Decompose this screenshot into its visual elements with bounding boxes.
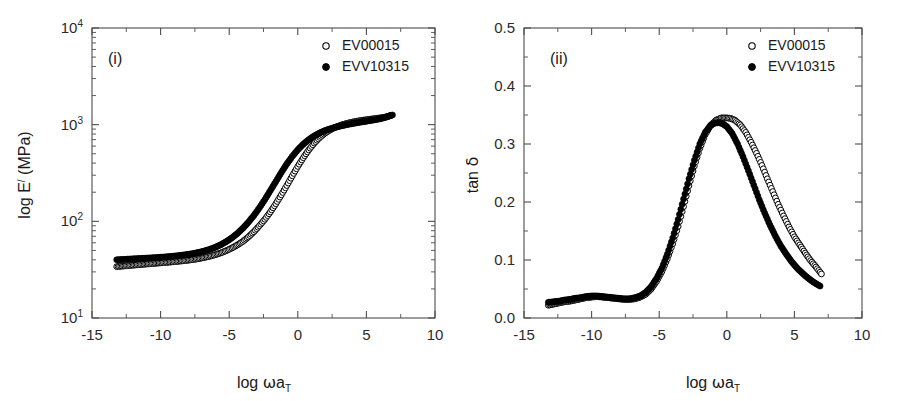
x-tick-label: 5 [362,326,370,343]
legend-marker-filled-circle-icon [323,64,330,71]
y-tick-label: 0.1 [494,251,515,268]
panel-ii-legend: EV00015EVV10315 [749,37,836,74]
panel-ii-data-points [545,115,824,308]
x-tick-label: -10 [581,326,603,343]
panel-i-data-points [114,112,396,270]
panel-i: -15-10-50510101102103104 (i) EV00015EVV1… [0,0,458,401]
panel-i-xaxis-title: log ωaT [237,373,291,394]
legend-label: EV00015 [768,37,826,53]
x-tick-label: 0 [294,326,302,343]
x-tick-label: 0 [723,326,731,343]
y-tick-label: 0.0 [494,309,515,326]
x-tick-label: -10 [150,326,172,343]
panel-ii: -15-10-505100.00.10.20.30.40.5 (ii) EV00… [458,0,916,401]
legend-label: EV00015 [342,37,400,53]
series-EVV10315 [114,112,396,263]
y-tick-label: 0.2 [494,193,515,210]
data-point-filled [817,283,823,289]
y-tick-label: 101 [61,308,84,326]
x-tick-label: 5 [790,326,798,343]
legend-label: EVV10315 [768,58,835,74]
x-tick-label: -15 [81,326,103,343]
legend-marker-open-circle-icon [749,43,755,49]
series-EV00015 [545,115,824,308]
y-tick-label: 104 [61,18,84,36]
panel-i-legend: EV00015EVV10315 [323,37,410,74]
legend-marker-filled-circle-icon [749,64,756,71]
panel-i-plot: -15-10-50510101102103104 (i) EV00015EVV1… [0,0,458,401]
x-tick-label: 10 [854,326,871,343]
panel-ii-label: (ii) [550,50,568,67]
x-tick-label: -15 [513,326,535,343]
x-tick-label: -5 [653,326,666,343]
series-EV00015 [114,112,394,269]
x-tick-label: -5 [223,326,236,343]
y-tick-label: 103 [61,115,84,133]
data-point-filled [389,112,395,118]
panel-i-yaxis-title: log E/ (MPa) [16,131,33,218]
data-point-open [819,271,825,277]
figure-container: -15-10-50510101102103104 (i) EV00015EVV1… [0,0,916,401]
panel-i-label: (i) [108,50,122,67]
legend-marker-open-circle-icon [323,43,329,49]
y-tick-label: 102 [61,211,84,229]
y-tick-label: 0.5 [494,19,515,36]
panel-ii-plot: -15-10-505100.00.10.20.30.40.5 (ii) EV00… [458,0,916,401]
x-tick-label: 10 [427,326,444,343]
panel-ii-yaxis-title: tan δ [463,157,482,193]
legend-label: EVV10315 [342,58,409,74]
y-tick-label: 0.3 [494,135,515,152]
y-tick-label: 0.4 [494,77,515,94]
panel-ii-xaxis-title: log ωaT [686,373,740,394]
